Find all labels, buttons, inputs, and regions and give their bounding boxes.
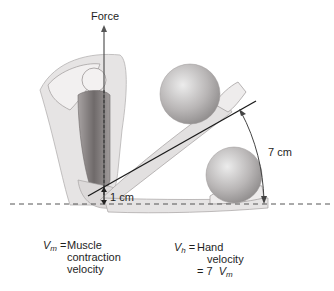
long-distance-label: 7 cm — [268, 146, 292, 158]
force-label: Force — [91, 10, 119, 22]
force-arrowhead — [101, 25, 107, 32]
vh-description: Hand velocity = 7 Vm — [197, 241, 244, 281]
vm-subscript: m — [50, 244, 57, 253]
ball-raised — [160, 64, 220, 124]
vm-description: Muscle contraction velocity — [67, 239, 121, 275]
vh-line-3: = 7 Vm — [197, 265, 244, 281]
vh-legend: Vh = — [174, 241, 195, 257]
ball-lowered — [206, 147, 262, 203]
vh-equals: = — [189, 241, 195, 253]
vh-line-1: Hand — [197, 241, 244, 253]
vh-subscript: h — [181, 246, 185, 255]
vm-equals: = — [60, 239, 66, 251]
vm-legend: Vm = — [43, 239, 67, 255]
humerus-head — [82, 68, 106, 92]
vm-line-2: contraction — [67, 251, 121, 263]
vh-vm-symbol: V — [219, 265, 226, 277]
vh-vm-subscript: m — [226, 270, 233, 279]
vm-line-3: velocity — [67, 263, 121, 275]
short-distance-label: 1 cm — [110, 191, 134, 203]
vm-line-1: Muscle — [67, 239, 121, 251]
vh-line-2: velocity — [197, 253, 244, 265]
vh-ratio: = 7 — [197, 265, 213, 277]
